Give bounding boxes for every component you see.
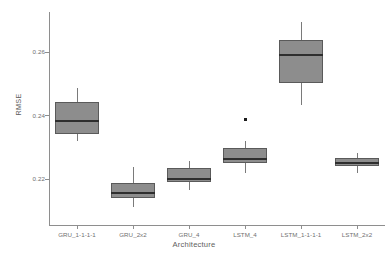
box-iqr-rect	[279, 40, 323, 84]
x-tick-label-gru-2x2: GRU_2x2	[119, 231, 147, 239]
y-tick-label-wrap: 0.22	[0, 175, 45, 182]
whisker-lower	[189, 182, 190, 190]
y-tick-label: 0.22	[19, 175, 45, 182]
y-tick-label: 0.26	[19, 48, 45, 55]
x-tick-label-gru-1-1-1-1: GRU_1-1-1-1	[58, 231, 96, 239]
x-tick-label-lstm-1-1-1-1: LSTM_1-1-1-1	[281, 231, 322, 239]
whisker-lower	[133, 198, 134, 207]
x-axis-line	[49, 225, 385, 226]
median-line	[111, 192, 155, 194]
whisker-upper	[77, 88, 78, 103]
y-tick-label-wrap: 0.26	[0, 48, 45, 55]
y-axis-label: RMSE	[14, 75, 23, 135]
x-tick-label-lstm-2x2: LSTM_2x2	[342, 231, 372, 239]
box-iqr-rect	[111, 183, 155, 198]
y-tick-label: 0.24	[19, 112, 45, 119]
box-iqr-rect	[55, 102, 99, 134]
y-tick-label-wrap: 0.24	[0, 112, 45, 119]
whisker-upper	[133, 167, 134, 184]
median-line	[167, 178, 211, 180]
box-iqr-rect	[167, 168, 211, 182]
x-tick-mark	[357, 225, 358, 229]
median-line	[55, 120, 99, 122]
y-tick-mark	[45, 52, 49, 53]
x-tick-mark	[133, 225, 134, 229]
whisker-upper	[245, 141, 246, 148]
x-tick-mark	[245, 225, 246, 229]
y-axis-line	[49, 12, 50, 225]
median-line	[335, 162, 379, 164]
x-tick-mark	[301, 225, 302, 229]
median-line	[223, 158, 267, 160]
whisker-lower	[301, 83, 302, 105]
y-tick-mark	[45, 179, 49, 180]
x-tick-mark	[77, 225, 78, 229]
whisker-upper	[301, 22, 302, 39]
boxplot-figure: 0.260.240.22 GRU_1-1-1-1GRU_2x2GRU_4LSTM…	[0, 0, 388, 255]
whisker-upper	[189, 161, 190, 168]
x-axis-label: Architecture	[0, 240, 388, 249]
x-tick-label-lstm-4: LSTM_4	[233, 231, 257, 239]
y-tick-mark	[45, 115, 49, 116]
whisker-lower	[77, 134, 78, 141]
x-tick-mark	[189, 225, 190, 229]
median-line	[279, 54, 323, 56]
box-iqr-rect	[223, 148, 267, 163]
outlier-point	[244, 118, 247, 121]
whisker-lower	[245, 163, 246, 173]
whisker-lower	[357, 166, 358, 173]
x-tick-label-gru-4: GRU_4	[179, 231, 200, 239]
